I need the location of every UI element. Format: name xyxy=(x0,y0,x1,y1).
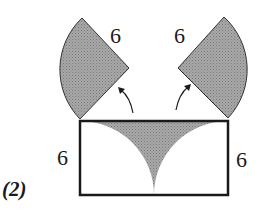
figure-label: (2) xyxy=(2,177,27,201)
shaded-region xyxy=(80,121,228,195)
right-sector xyxy=(178,17,247,118)
rect-left-height-label: 6 xyxy=(57,145,68,170)
left-sector-radius-label: 6 xyxy=(110,23,121,48)
right-sector-radius-label: 6 xyxy=(174,23,185,48)
right-arrow xyxy=(176,84,191,110)
rect-right-height-label: 6 xyxy=(236,147,247,172)
diagram-canvas: 6 6 6 6 (2) xyxy=(0,0,258,215)
left-arrow xyxy=(118,87,133,113)
